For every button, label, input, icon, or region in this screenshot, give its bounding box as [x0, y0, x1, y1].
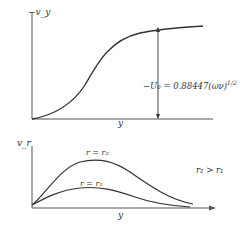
top-sigmoid-curve — [32, 26, 203, 119]
comparison-label: r₂ > r₁ — [196, 165, 223, 175]
x-axis-arrow-icon — [209, 206, 216, 211]
curve-label-r1: r = r₁ — [80, 179, 103, 188]
bottom-x-axis-label: y — [118, 210, 123, 220]
curve-r2 — [32, 160, 193, 205]
top-y-axis-label: −v_y — [28, 7, 50, 17]
diagram-canvas — [0, 0, 240, 233]
arrow-head-down-icon — [156, 114, 160, 119]
curve-r1 — [32, 187, 190, 207]
bottom-y-axis-label: v_r — [17, 138, 31, 148]
top-x-axis-label: y — [118, 118, 123, 128]
curve-label-r2: r = r₂ — [86, 148, 109, 157]
u0-annotation: −U₀ = 0.88447(ων)1/2 — [143, 79, 237, 91]
